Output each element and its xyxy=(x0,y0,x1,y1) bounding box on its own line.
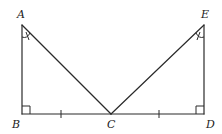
label-B: B xyxy=(11,118,20,131)
right-angle-mark-D xyxy=(196,106,204,114)
angle-arc-E xyxy=(196,33,204,38)
label-D: D xyxy=(205,118,215,131)
angle-arc-A xyxy=(22,33,30,38)
label-C: C xyxy=(107,118,116,131)
segment-AC xyxy=(22,25,111,114)
geometry-diagram: A B C D E xyxy=(0,0,222,134)
label-A: A xyxy=(16,8,25,21)
label-E: E xyxy=(200,8,209,21)
segment-EC xyxy=(111,25,204,114)
right-angle-mark-B xyxy=(22,106,30,114)
